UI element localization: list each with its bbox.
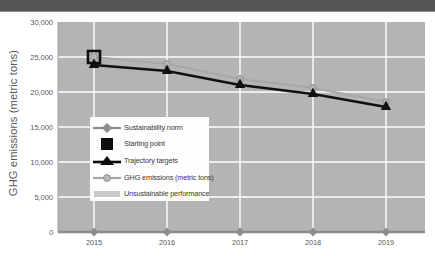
x-tick-label: 2015 — [79, 238, 109, 247]
legend-item-unsustainable-performance: Unsustainable performance — [90, 186, 209, 202]
square-marker-icon — [90, 136, 124, 152]
x-tick-label: 2017 — [225, 238, 255, 247]
chart-figure: GHG emissions (metric tons) 30,000 25,00… — [0, 0, 435, 256]
circle-line-marker-icon — [90, 170, 124, 186]
legend-item-label: Starting point — [124, 140, 165, 147]
band-swatch-icon — [90, 186, 124, 202]
legend-item-trajectory-targets: Trajectory targets — [90, 153, 209, 169]
diamond-line-marker-icon — [90, 120, 124, 136]
chart-legend: Sustainability norm Starting point Traje… — [90, 117, 209, 201]
legend-item-label: GHG emissions (metric tons) — [124, 174, 214, 181]
legend-item-label: Sustainability norm — [124, 124, 183, 131]
legend-item-label: Trajectory targets — [124, 157, 178, 164]
triangle-line-marker-icon — [90, 153, 124, 169]
x-tick-label: 2018 — [298, 238, 328, 247]
legend-item-sustainability-norm: Sustainability norm — [90, 120, 209, 136]
chart-plot — [0, 0, 435, 256]
legend-item-ghg-emissions: GHG emissions (metric tons) — [90, 170, 209, 186]
legend-item-starting-point: Starting point — [90, 136, 209, 152]
x-tick-label: 2016 — [152, 238, 182, 247]
legend-item-label: Unsustainable performance — [124, 190, 209, 197]
x-tick-label: 2019 — [371, 238, 401, 247]
